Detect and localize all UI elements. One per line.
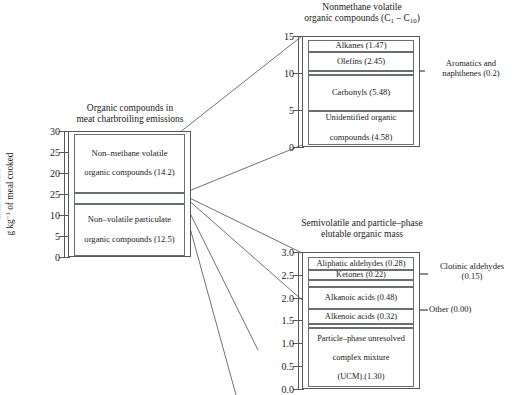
ytick-label-2-5: 2.5 <box>266 269 294 280</box>
plot-area-svoc: Aliphatic aldehydes (0.28) Ketones (0.22… <box>302 252 420 389</box>
chart-title-nmvoc-line2: organic compounds (C1 – C10) <box>262 13 462 25</box>
ytick-label-0: 0 <box>36 252 60 263</box>
ytick-label-0-5: 0.5 <box>266 361 294 372</box>
plot-area-nmvoc: Alkanes (1.47) Olefins (2.45) Carbonyls … <box>302 36 420 147</box>
ytick-label-1-5: 1.5 <box>266 315 294 326</box>
callout-aromatics-and-naphthenes: Aromatics and naphthenes (0.2) <box>428 58 514 78</box>
segment-non-methane-volatile[interactable]: Non–methane volatile organic compounds (… <box>74 134 185 193</box>
y-axis-label: Emission rate g kg−1 of meal cooked <box>0 131 18 257</box>
tick-inner-0-0 <box>299 389 304 390</box>
segment-ketones[interactable]: Ketones (0.22) <box>308 270 414 280</box>
callout-other: Other (0.00) <box>429 304 513 314</box>
segment-unidentified-organic-compounds[interactable]: Unidentified organic compounds (4.58) <box>308 111 414 145</box>
ytick-label-10: 10 <box>270 68 294 79</box>
segment-carbonyls[interactable]: Carbonyls (5.48) <box>308 75 414 111</box>
ytick-label-30: 30 <box>36 126 60 137</box>
ytick-label-20: 20 <box>36 168 60 179</box>
ytick-label-0-0: 0.0 <box>266 384 294 395</box>
segment-aliphatic-aldehydes[interactable]: Aliphatic aldehydes (0.28) <box>308 257 414 270</box>
ytick-label-15: 25 <box>36 189 60 200</box>
y-axis-label-units: g kg−1 of meal cooked <box>4 131 17 257</box>
segment-olefins[interactable]: Olefins (2.45) <box>308 52 414 71</box>
y-axis-svoc <box>298 252 299 389</box>
callout-clotinic-aldehydes: Clotinic aldehydes (0.15) <box>430 261 514 281</box>
y-axis-left <box>64 131 65 257</box>
ytick-label-10: 10 <box>36 210 60 221</box>
ytick-label-1-0: 1.0 <box>266 338 294 349</box>
ytick-label-5: 5 <box>36 231 60 242</box>
ytick-label-0: 0 <box>270 142 294 153</box>
segment-clotinic-aldehydes[interactable] <box>308 280 414 287</box>
tick-inner-0 <box>65 257 70 258</box>
segment-alkanoic-acids[interactable]: Alkanoic acids (0.48) <box>308 287 414 309</box>
chart-title-meat-charbroiling: Organic compounds in meat charbroiling e… <box>55 103 205 125</box>
segment-particle-phase-ucm[interactable]: Particle–phase unresolved complex mixtur… <box>308 328 414 387</box>
segment-alkanes[interactable]: Alkanes (1.47) <box>308 40 414 52</box>
tick-inner-0 <box>299 147 304 148</box>
chart-title-svoc: Semivolatile and particle–phase elutable… <box>262 218 462 240</box>
segment-non-volatile-particulate[interactable]: Non–volatile particulate organic compoun… <box>74 204 185 256</box>
ytick-label-5: 5 <box>270 105 294 116</box>
ytick-label-25: 25 <box>36 147 60 158</box>
ytick-label-2-0: 2.0 <box>266 292 294 303</box>
y-axis-nmvoc <box>298 36 299 147</box>
ytick-label-15: 15 <box>270 31 294 42</box>
segment-alkenoic-acids[interactable]: Alkenoic acids (0.32) <box>308 309 414 324</box>
segment-divider-gap[interactable] <box>74 193 185 204</box>
ytick-label-3-0: 3.0 <box>266 247 294 258</box>
chart-title-nmvoc: Nonmethane volatile organic compounds (C… <box>262 2 462 25</box>
plot-area-meat-charbroiling: Non–methane volatile organic compounds (… <box>68 131 191 257</box>
figure-canvas: Organic compounds in meat charbroiling e… <box>0 0 514 395</box>
